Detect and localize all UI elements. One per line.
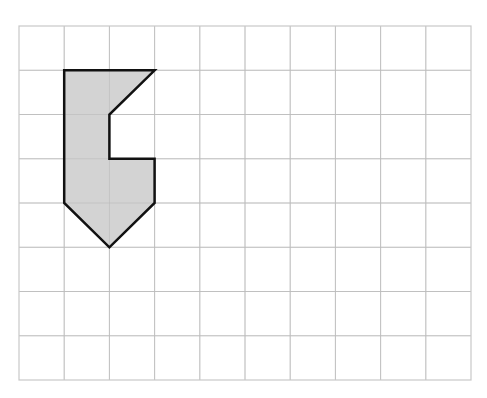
grid-diagram [0, 0, 487, 398]
